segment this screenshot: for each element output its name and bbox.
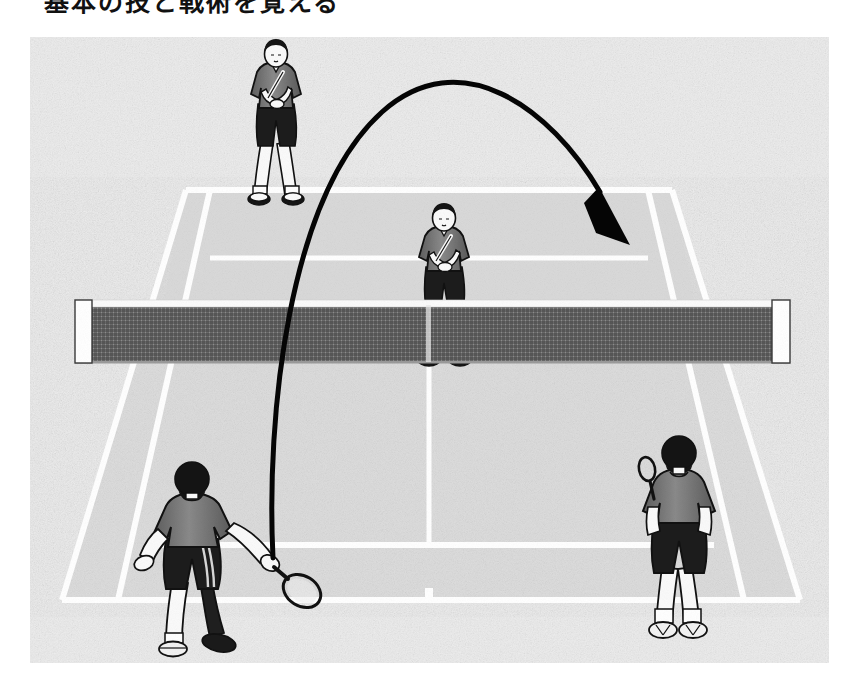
page-root: 基本の技と戦術を覚える [0,0,858,685]
caption-text: 基本の技と戦術を覚える [44,0,340,16]
tennis-court-illustration [30,37,829,663]
net-post-right [772,300,790,363]
net-tape [75,300,790,307]
caption-strip: 基本の技と戦術を覚える [0,0,858,16]
center-mark [425,588,433,600]
illustration-panel [30,37,829,663]
net-post-left [75,300,92,363]
tennis-net [75,300,790,364]
net-mesh [75,305,790,362]
net-bottom-cord [75,361,790,364]
net-center-strap [426,305,431,362]
